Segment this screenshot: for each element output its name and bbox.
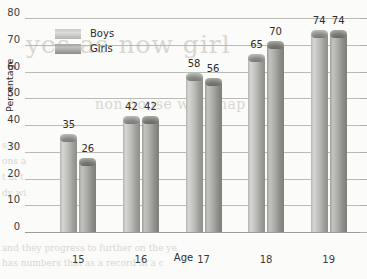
legend-item-girls[interactable]: Girls xyxy=(55,42,114,55)
y-tick-mark-60 xyxy=(360,72,367,73)
y-tick-label-30: 30 xyxy=(7,140,20,151)
bar-body xyxy=(186,77,203,232)
bar-value-label: 74 xyxy=(313,15,326,26)
y-tick-label-50: 50 xyxy=(7,87,20,98)
y-tick-label-80: 80 xyxy=(7,7,20,18)
bar-body xyxy=(330,34,347,232)
bar-cap-ellipse xyxy=(186,73,203,81)
bar-value-label: 42 xyxy=(144,101,157,112)
bar-value-label: 70 xyxy=(269,26,282,37)
y-tick-label-0: 0 xyxy=(14,221,20,232)
bar-value-label: 56 xyxy=(207,63,220,74)
x-axis-title: Age xyxy=(0,252,367,263)
bar-boys-19[interactable]: 74 xyxy=(311,30,328,232)
bar-chart: yes as now girl non house will chap s co… xyxy=(0,0,367,279)
bar-cap-ellipse xyxy=(311,30,328,38)
bar-value-label: 58 xyxy=(188,58,201,69)
y-tick-mark-80 xyxy=(360,18,367,19)
bar-cap-ellipse xyxy=(142,116,159,124)
bar-cap-ellipse xyxy=(330,30,347,38)
bar-cap-ellipse xyxy=(267,41,284,49)
bar-body xyxy=(267,45,284,232)
gridline-0 xyxy=(25,232,360,233)
bar-cap-ellipse xyxy=(60,134,77,142)
y-tick-mark-70 xyxy=(360,45,367,46)
gridline-80 xyxy=(25,18,360,19)
y-tick-mark-30 xyxy=(360,152,367,153)
bar-boys-15[interactable]: 35 xyxy=(60,134,77,232)
y-tick-label-10: 10 xyxy=(7,194,20,205)
bar-cap-ellipse xyxy=(205,78,222,86)
y-tick-mark-0 xyxy=(360,232,367,233)
y-tick-mark-40 xyxy=(360,125,367,126)
bar-body xyxy=(123,120,140,232)
bar-body xyxy=(142,120,159,232)
legend: Boys Girls xyxy=(55,27,114,57)
bar-value-label: 42 xyxy=(125,101,138,112)
y-tick-label-20: 20 xyxy=(7,167,20,178)
y-tick-mark-20 xyxy=(360,179,367,180)
bar-boys-16[interactable]: 42 xyxy=(123,116,140,232)
bar-girls-16[interactable]: 42 xyxy=(142,116,159,232)
bar-boys-18[interactable]: 65 xyxy=(248,54,265,232)
boys-swatch-icon xyxy=(55,29,81,39)
bar-body xyxy=(248,58,265,232)
y-tick-label-70: 70 xyxy=(7,33,20,44)
bar-girls-19[interactable]: 74 xyxy=(330,30,347,232)
bar-value-label: 74 xyxy=(332,15,345,26)
bar-cap-ellipse xyxy=(248,54,265,62)
legend-item-boys[interactable]: Boys xyxy=(55,27,114,40)
y-tick-mark-10 xyxy=(360,205,367,206)
bar-value-label: 26 xyxy=(81,143,94,154)
bar-body xyxy=(311,34,328,232)
bar-body xyxy=(60,138,77,232)
bar-cap-ellipse xyxy=(123,116,140,124)
bar-body xyxy=(79,162,96,232)
bar-body xyxy=(205,82,222,232)
bar-value-label: 35 xyxy=(62,119,75,130)
legend-label-girls: Girls xyxy=(90,43,113,54)
bleed-text-line-4: ons a xyxy=(2,156,26,166)
bar-girls-18[interactable]: 70 xyxy=(267,41,284,232)
bar-girls-15[interactable]: 26 xyxy=(79,158,96,232)
bar-boys-17[interactable]: 58 xyxy=(186,73,203,232)
bar-value-label: 65 xyxy=(250,39,263,50)
bar-girls-17[interactable]: 56 xyxy=(205,78,222,232)
bar-cap-ellipse xyxy=(79,158,96,166)
y-tick-mark-50 xyxy=(360,98,367,99)
legend-label-boys: Boys xyxy=(90,28,114,39)
y-tick-label-60: 60 xyxy=(7,60,20,71)
girls-swatch-icon xyxy=(55,44,81,54)
y-tick-label-40: 40 xyxy=(7,114,20,125)
